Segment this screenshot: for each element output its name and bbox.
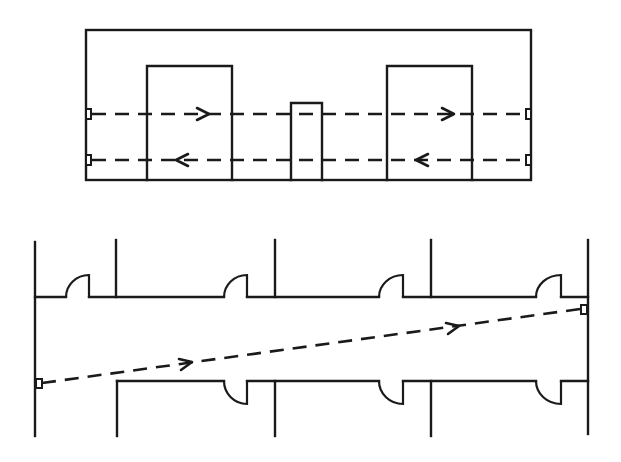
door-top-4 (536, 275, 561, 297)
arrow-right-icon (197, 108, 209, 120)
beam-diagram (0, 0, 621, 462)
door-top-3 (379, 275, 403, 297)
diagonal-beam (42, 309, 580, 383)
top-panel (86, 30, 531, 180)
sensor-corridor-right (581, 305, 587, 314)
door-bottom-3 (536, 381, 561, 404)
sensor-right-upper (526, 109, 531, 119)
door-top-2 (224, 275, 247, 297)
arrow-right-icon (446, 323, 459, 334)
door-top-1 (66, 275, 89, 297)
door-bottom-2 (379, 381, 403, 404)
left-block (147, 66, 232, 180)
sensor-left-lower (86, 155, 91, 165)
right-block (387, 66, 472, 180)
outer-room (86, 30, 531, 180)
sensor-left-upper (86, 109, 91, 119)
bottom-panel (35, 240, 588, 436)
sensor-right-lower (526, 155, 531, 165)
sensor-corridor-left (36, 379, 42, 388)
door-bottom-1 (224, 381, 247, 404)
